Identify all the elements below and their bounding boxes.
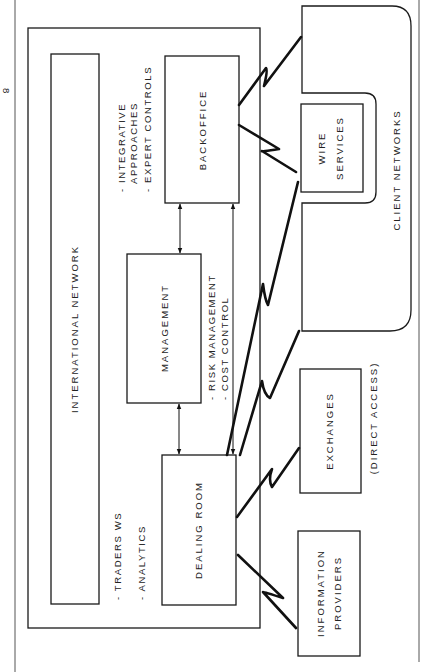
information-providers-label-line2: PROVIDERS <box>332 556 343 630</box>
link-dealing-room-information-providers <box>238 555 296 628</box>
information-providers-label-line1: INFORMATION <box>315 549 326 637</box>
link-dealing-room-wire-services <box>227 182 298 455</box>
information-providers-box[interactable] <box>298 531 360 656</box>
management-annotation-2: - COST CONTROL <box>219 296 230 400</box>
wire-services-label-line2: SERVICES <box>334 116 345 180</box>
management-annotation-1: - RISK MANAGEMENT <box>206 274 217 400</box>
backoffice-annotation-1: - INTEGRATIVE <box>116 103 127 192</box>
exchanges-note: (DIRECT ACCESS) <box>368 362 379 475</box>
client-networks-label: CLIENT NETWORKS <box>391 109 402 230</box>
page-marker: 8 <box>1 88 12 95</box>
wire-services-label-line1: WIRE <box>316 132 327 165</box>
backoffice-annotation-3: - EXPERT CONTROLS <box>142 66 153 192</box>
backoffice-annotation-2: APPROACHES <box>128 102 139 192</box>
international-network-label: INTERNATIONAL NETWORK <box>69 245 80 413</box>
link-backoffice-client-networks <box>239 37 301 105</box>
dealing-room-label: DEALING ROOM <box>193 481 204 579</box>
trading-system-diagram: 8 INTERNATIONAL NETWORK CLIENT NETWORKS … <box>0 0 422 672</box>
link-dealing-room-exchanges <box>237 448 299 517</box>
exchanges-label: EXCHANGES <box>324 392 335 470</box>
dealing-room-annotation-1: - TRADERS WS <box>112 512 123 600</box>
backoffice-label: BACKOFFICE <box>197 90 208 171</box>
dealing-room-annotation-2: - ANALYTICS <box>136 525 147 600</box>
wire-services-box[interactable] <box>301 104 363 192</box>
management-label: MANAGEMENT <box>159 284 170 372</box>
link-backoffice-wire-services <box>239 125 296 172</box>
